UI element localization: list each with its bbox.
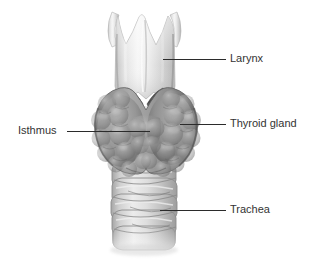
label-trachea: Trachea <box>230 203 270 216</box>
label-isthmus: Isthmus <box>18 124 57 137</box>
label-larynx: Larynx <box>230 52 263 65</box>
larynx-structure <box>108 12 181 100</box>
thyroid-anatomy-figure: Larynx Thyroid gland Isthmus Trachea <box>0 0 319 263</box>
thyroid-gland-structure <box>91 88 201 177</box>
label-thyroid-gland: Thyroid gland <box>230 117 297 130</box>
trachea-structure <box>100 162 192 263</box>
